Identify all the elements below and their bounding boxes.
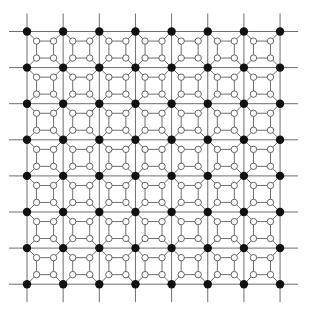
hollow-node: [70, 218, 76, 224]
black-node: [59, 172, 67, 180]
hollow-node: [250, 163, 256, 169]
black-node: [59, 100, 67, 108]
hollow-node: [159, 199, 165, 205]
hollow-node: [178, 271, 184, 277]
black-node: [167, 27, 175, 35]
hollow-node: [214, 38, 220, 44]
hollow-node: [195, 235, 201, 241]
hollow-node: [142, 91, 148, 97]
black-node: [167, 136, 175, 144]
hollow-node: [50, 55, 56, 61]
hollow-node: [159, 218, 165, 224]
hollow-node: [106, 74, 112, 80]
hollow-node: [106, 127, 112, 133]
hollow-node: [214, 146, 220, 152]
hollow-node: [123, 271, 129, 277]
hollow-node: [50, 271, 56, 277]
hollow-node: [195, 91, 201, 97]
hollow-node: [87, 182, 93, 188]
hollow-node: [123, 38, 129, 44]
hollow-node: [142, 235, 148, 241]
hollow-node: [106, 146, 112, 152]
black-node: [95, 100, 103, 108]
hollow-node: [159, 182, 165, 188]
black-nodes: [23, 27, 284, 288]
hollow-node: [123, 254, 129, 260]
hollow-node: [50, 127, 56, 133]
hollow-node: [33, 199, 39, 205]
hollow-node: [50, 91, 56, 97]
hollow-node: [159, 127, 165, 133]
hollow-node: [142, 254, 148, 260]
black-node: [95, 208, 103, 216]
black-node: [59, 63, 67, 71]
hollow-node: [70, 163, 76, 169]
hollow-node: [250, 55, 256, 61]
black-node: [95, 280, 103, 288]
hollow-node: [178, 91, 184, 97]
hollow-node: [159, 146, 165, 152]
hollow-node: [142, 146, 148, 152]
hollow-node: [50, 146, 56, 152]
hollow-node: [214, 163, 220, 169]
hollow-node: [231, 91, 237, 97]
hollow-node: [178, 254, 184, 260]
black-node: [204, 280, 212, 288]
black-node: [131, 63, 139, 71]
hollow-node: [87, 235, 93, 241]
black-node: [276, 280, 284, 288]
hollow-node: [33, 74, 39, 80]
black-node: [23, 136, 31, 144]
black-node: [240, 100, 248, 108]
hollow-node: [106, 271, 112, 277]
hollow-node: [142, 74, 148, 80]
black-node: [240, 208, 248, 216]
black-node: [276, 63, 284, 71]
black-node: [95, 27, 103, 35]
black-node: [131, 136, 139, 144]
hollow-node: [106, 218, 112, 224]
hollow-node: [195, 110, 201, 116]
hollow-node: [70, 235, 76, 241]
hollow-node: [87, 199, 93, 205]
hollow-node: [267, 235, 273, 241]
hollow-node: [123, 127, 129, 133]
hollow-node: [178, 218, 184, 224]
black-node: [167, 280, 175, 288]
hollow-node: [123, 182, 129, 188]
hollow-node: [159, 55, 165, 61]
hollow-node: [231, 182, 237, 188]
hollow-node: [106, 91, 112, 97]
black-node: [95, 172, 103, 180]
hollow-node: [178, 127, 184, 133]
hollow-node: [87, 218, 93, 224]
hollow-node: [159, 271, 165, 277]
hollow-node: [267, 271, 273, 277]
black-node: [59, 244, 67, 252]
black-node: [23, 172, 31, 180]
hollow-node: [250, 146, 256, 152]
black-node: [23, 280, 31, 288]
hollow-node: [214, 127, 220, 133]
black-node: [204, 27, 212, 35]
hollow-node: [214, 218, 220, 224]
hollow-node: [87, 55, 93, 61]
hollow-node: [250, 235, 256, 241]
hollow-node: [123, 110, 129, 116]
black-node: [204, 100, 212, 108]
black-node: [95, 244, 103, 252]
hollow-node: [70, 91, 76, 97]
hollow-node: [106, 110, 112, 116]
black-node: [131, 208, 139, 216]
hollow-node: [123, 91, 129, 97]
hollow-node: [250, 110, 256, 116]
hollow-node: [87, 38, 93, 44]
black-node: [204, 136, 212, 144]
hollow-node: [70, 74, 76, 80]
hollow-node: [33, 254, 39, 260]
hollow-node: [142, 271, 148, 277]
hollow-node: [87, 146, 93, 152]
hollow-node: [87, 110, 93, 116]
hollow-node: [33, 235, 39, 241]
hollow-node: [250, 271, 256, 277]
